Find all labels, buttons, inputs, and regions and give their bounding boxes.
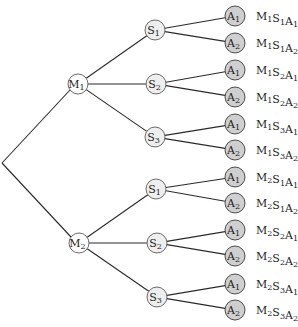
edge-s-a (165, 18, 225, 29)
edge-s-a (166, 86, 225, 96)
node-a1-0: A1 (225, 6, 245, 26)
tree-nodes: M1M2S1S2S3S1S2S3A1A2A1A2A1A2A1A2A1A2A1A2 (68, 6, 245, 320)
edge-s-a (165, 139, 225, 149)
outcome-label: M2S2A1 (256, 224, 298, 244)
node-a2-7: A2 (225, 193, 245, 213)
node-a1-8: A1 (225, 220, 245, 240)
node-a2-11: A2 (225, 300, 245, 320)
node-a2-3: A2 (225, 87, 245, 107)
node-a1-6: A1 (225, 167, 245, 187)
edge-s-a (167, 245, 225, 255)
outcome-label: M1S3A1 (256, 118, 298, 138)
outcome-label: M1S1A1 (256, 10, 298, 30)
edge-s-a (166, 179, 225, 188)
node-a2-5: A2 (225, 140, 245, 160)
outcome-label: M1S2A1 (256, 64, 298, 84)
node-s3-5: S3 (147, 287, 167, 307)
node-m2-1: M2 (69, 233, 89, 253)
edge-s-a (165, 126, 225, 136)
edge-m-s (87, 195, 148, 238)
edge-root-m1 (2, 90, 70, 163)
outcome-label: M2S3A1 (256, 278, 298, 298)
node-a1-2: A1 (225, 60, 245, 80)
node-s1-3: S1 (146, 179, 166, 199)
node-s2-1: S2 (146, 74, 166, 94)
outcome-label: M1S2A2 (256, 91, 298, 111)
edge-m-s (86, 36, 147, 79)
node-s2-4: S2 (147, 233, 167, 253)
edge-root-m2 (2, 163, 71, 237)
node-a1-10: A1 (225, 274, 245, 294)
edge-s-a (167, 299, 225, 309)
edge-s-a (165, 32, 225, 42)
outcome-label: M2S1A2 (256, 197, 298, 217)
outcome-label: M2S1A1 (256, 171, 298, 191)
node-m1-0: M1 (68, 74, 88, 94)
edge-m-s (86, 90, 147, 132)
tree-edges (2, 18, 225, 309)
outcome-label: M2S3A2 (256, 304, 298, 324)
node-s1-0: S1 (145, 20, 165, 40)
outcome-label: M1S1A2 (256, 37, 298, 57)
outcome-labels: M1S1A1M1S1A2M1S2A1M1S2A2M1S3A1M1S3A2M2S1… (256, 10, 298, 324)
edge-s-a (166, 191, 225, 202)
node-a2-1: A2 (225, 33, 245, 53)
edge-s-a (166, 72, 225, 83)
node-a2-9: A2 (225, 246, 245, 266)
outcome-label: M1S3A2 (256, 144, 298, 164)
outcome-label: M2S2A2 (256, 250, 298, 270)
edge-m-s (87, 249, 149, 292)
node-s3-2: S3 (145, 127, 165, 147)
node-a1-4: A1 (225, 114, 245, 134)
edge-s-a (167, 232, 225, 242)
tree-diagram: M1M2S1S2S3S1S2S3A1A2A1A2A1A2A1A2A1A2A1A2… (0, 0, 298, 327)
edge-s-a (167, 286, 225, 296)
